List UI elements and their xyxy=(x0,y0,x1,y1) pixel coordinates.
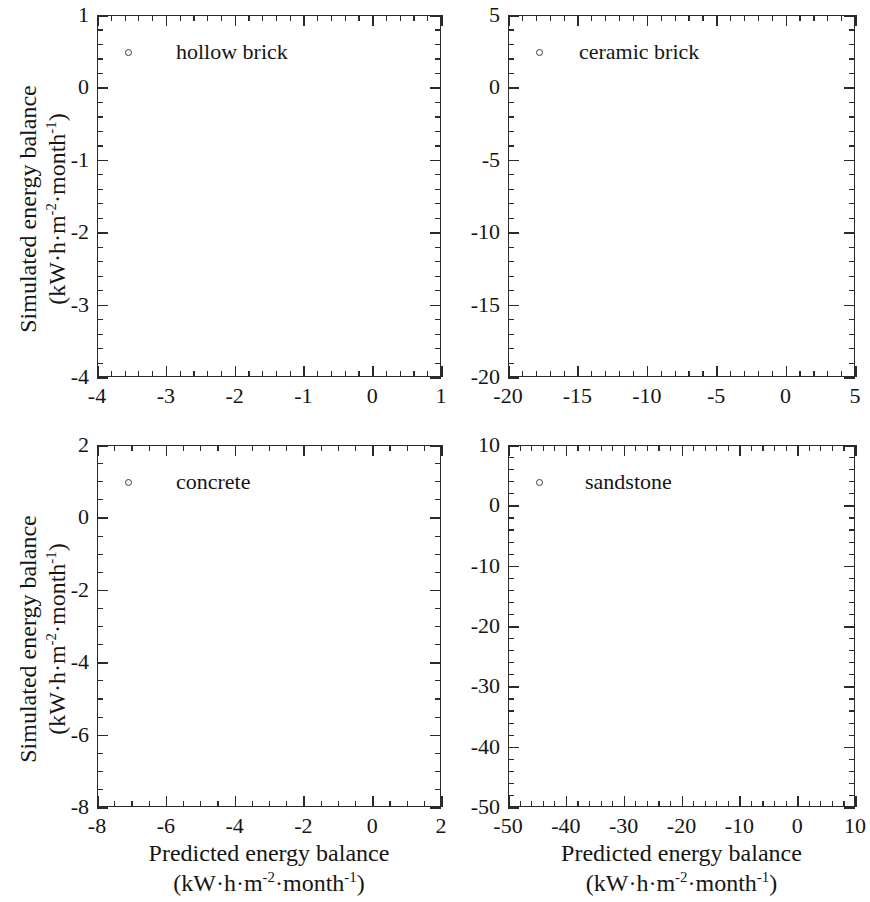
tick-mark xyxy=(217,445,218,451)
y-tick-label: 0 xyxy=(446,494,500,516)
tick-mark xyxy=(849,116,855,117)
tick-mark xyxy=(786,445,787,451)
tick-mark xyxy=(430,377,441,379)
tick-mark xyxy=(744,15,745,21)
tick-mark xyxy=(728,801,729,807)
tick-mark xyxy=(508,15,519,17)
tick-mark xyxy=(508,44,514,45)
tick-mark xyxy=(441,15,443,26)
tick-mark xyxy=(97,377,108,379)
tick-mark xyxy=(619,371,620,377)
tick-mark xyxy=(849,723,855,724)
x-tick-label: 5 xyxy=(850,385,861,407)
tick-mark xyxy=(844,160,855,162)
tick-mark xyxy=(849,102,855,103)
tick-mark xyxy=(200,445,201,451)
tick-mark xyxy=(849,542,855,543)
tick-mark xyxy=(849,783,855,784)
tick-mark xyxy=(435,463,441,464)
tick-mark xyxy=(550,15,551,21)
tick-mark xyxy=(739,445,741,456)
tick-mark xyxy=(97,499,103,500)
x-tick-label: 10 xyxy=(844,815,866,837)
tick-mark xyxy=(303,366,305,377)
tick-mark xyxy=(849,247,855,248)
tick-mark xyxy=(508,319,514,320)
tick-mark xyxy=(430,517,441,519)
tick-mark xyxy=(372,15,374,26)
tick-mark xyxy=(286,801,287,807)
tick-mark xyxy=(619,15,620,21)
tick-mark xyxy=(97,590,108,592)
tick-mark xyxy=(427,15,428,21)
tick-mark xyxy=(612,801,613,807)
legend-concrete: concrete xyxy=(125,471,251,493)
tick-mark xyxy=(427,371,428,377)
tick-mark xyxy=(183,801,184,807)
tick-mark xyxy=(849,29,855,30)
tick-mark xyxy=(400,15,401,21)
tick-mark xyxy=(661,371,662,377)
tick-mark xyxy=(269,445,270,451)
tick-mark xyxy=(813,15,814,21)
tick-mark xyxy=(849,638,855,639)
tick-mark xyxy=(841,15,842,21)
axes-frame-sandstone xyxy=(508,445,855,807)
y-tick-label: -20 xyxy=(446,366,500,388)
tick-mark xyxy=(435,698,441,699)
tick-mark xyxy=(389,801,390,807)
x-axis-title-line1: Predicted energy balance xyxy=(97,838,441,868)
tick-mark xyxy=(844,377,855,379)
tick-mark xyxy=(435,608,441,609)
tick-mark xyxy=(849,759,855,760)
tick-mark xyxy=(97,662,108,664)
tick-mark xyxy=(658,801,659,807)
tick-mark xyxy=(849,73,855,74)
tick-mark xyxy=(522,371,523,377)
y-tick-label: 10 xyxy=(446,434,500,456)
tick-mark xyxy=(262,15,263,21)
tick-mark xyxy=(508,305,519,307)
tick-mark xyxy=(508,554,514,555)
tick-mark xyxy=(508,247,514,248)
tick-mark xyxy=(849,348,855,349)
y-tick-label: -50 xyxy=(446,796,500,818)
tick-mark xyxy=(131,801,132,807)
tick-mark xyxy=(693,445,694,451)
tick-mark xyxy=(647,445,648,451)
tick-mark xyxy=(832,801,833,807)
tick-mark xyxy=(430,590,441,592)
tick-mark xyxy=(508,102,514,103)
tick-mark xyxy=(97,160,108,162)
tick-mark xyxy=(820,801,821,807)
tick-mark xyxy=(688,371,689,377)
tick-mark xyxy=(855,366,857,377)
tick-mark xyxy=(751,801,752,807)
x-tick-label: -6 xyxy=(157,815,175,837)
tick-mark xyxy=(435,261,441,262)
tick-mark xyxy=(844,232,855,234)
tick-mark xyxy=(430,87,441,89)
tick-mark xyxy=(114,445,115,451)
tick-mark xyxy=(577,445,578,451)
tick-mark xyxy=(508,160,519,162)
tick-mark xyxy=(97,29,103,30)
tick-mark xyxy=(435,44,441,45)
tick-mark xyxy=(97,481,103,482)
legend-sandstone: sandstone xyxy=(536,471,672,493)
tick-mark xyxy=(855,445,857,456)
tick-mark xyxy=(849,131,855,132)
y-tick-label: 2 xyxy=(35,434,89,456)
tick-mark xyxy=(111,15,112,21)
x-tick-label: 2 xyxy=(436,815,447,837)
tick-mark xyxy=(207,371,208,377)
legend-marker-icon xyxy=(125,479,132,486)
tick-mark xyxy=(844,626,855,628)
y-tick-label: -8 xyxy=(35,796,89,818)
tick-mark xyxy=(702,371,703,377)
tick-mark xyxy=(372,796,374,807)
tick-mark xyxy=(269,801,270,807)
legend-label-hollow-brick: hollow brick xyxy=(176,41,288,63)
tick-mark xyxy=(435,644,441,645)
tick-mark xyxy=(317,15,318,21)
